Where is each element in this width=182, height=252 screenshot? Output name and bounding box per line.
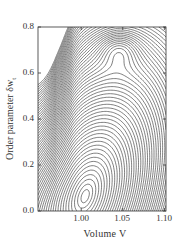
- y-axis-label: Order parameter δwt: [4, 64, 18, 174]
- x-axis-label: Volume V: [60, 228, 150, 239]
- x-tick-label: 1.00: [66, 214, 96, 223]
- y-tick-label: 0.8: [12, 22, 34, 31]
- contour-figure: 0.8 0.6 0.4 0.2 0.0 1.00 1.05 1.10 Volum…: [0, 0, 182, 252]
- x-tick-label: 1.10: [149, 214, 179, 223]
- x-tick-label: 1.05: [107, 214, 137, 223]
- contour-lines: [38, 27, 166, 211]
- y-tick-label: 0.0: [12, 206, 34, 215]
